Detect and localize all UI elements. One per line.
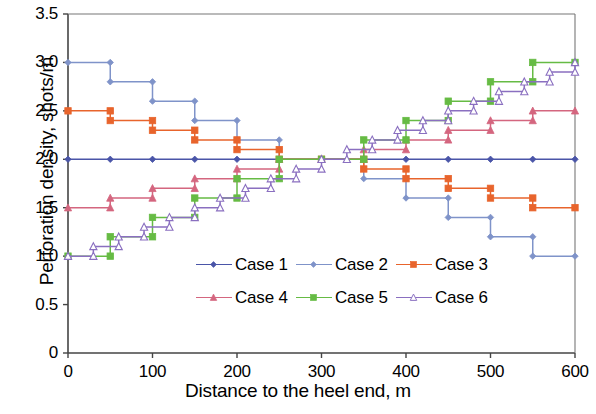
plot-area (0, 0, 596, 414)
legend-item-case-3[interactable]: Case 3 (396, 248, 496, 281)
legend-label-case-4: Case 4 (235, 288, 288, 308)
legend-marker-square-icon (309, 293, 318, 302)
legend-item-case-1[interactable]: Case 1 (196, 248, 296, 281)
legend-label-case-1: Case 1 (235, 255, 288, 275)
legend-label-case-6: Case 6 (435, 288, 488, 308)
legend-swatch-case-3 (396, 258, 432, 272)
legend-marker-triangle-icon (209, 293, 218, 302)
legend-item-case-5[interactable]: Case 5 (296, 281, 396, 314)
legend-marker-triangle-open-icon (409, 293, 418, 302)
legend-item-case-6[interactable]: Case 6 (396, 281, 496, 314)
legend-swatch-case-4 (196, 291, 232, 305)
legend-swatch-case-6 (396, 291, 432, 305)
legend-marker-diamond-icon (209, 260, 218, 269)
legend-item-case-2[interactable]: Case 2 (296, 248, 396, 281)
legend-swatch-case-2 (296, 258, 332, 272)
legend-row-2: Case 4 Case 5 Case 6 (196, 281, 496, 314)
legend-label-case-2: Case 2 (335, 255, 388, 275)
legend-marker-square-icon (409, 260, 418, 269)
chart-figure: Perforation density, shots/m Distance to… (0, 0, 596, 414)
legend-swatch-case-1 (196, 258, 232, 272)
legend-swatch-case-5 (296, 291, 332, 305)
legend-row-1: Case 1 Case 2 Case 3 (196, 248, 496, 281)
chart-legend: Case 1 Case 2 Case 3 Case 4 Case 5 (196, 248, 496, 314)
legend-item-case-4[interactable]: Case 4 (196, 281, 296, 314)
legend-marker-diamond-icon (309, 260, 318, 269)
legend-label-case-3: Case 3 (435, 255, 488, 275)
legend-label-case-5: Case 5 (335, 288, 388, 308)
